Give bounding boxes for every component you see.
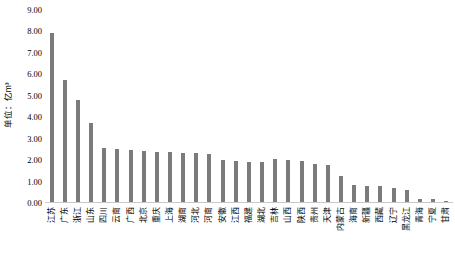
x-axis-tick-label: 天津 (324, 207, 332, 223)
x-label-slot: 吉林 (269, 205, 282, 255)
bar-slot (203, 10, 216, 203)
x-axis-tick-label: 内蒙古 (337, 207, 345, 231)
x-label-slot: 云南 (111, 205, 124, 255)
bar (63, 80, 67, 203)
bar (102, 148, 106, 203)
x-axis-tick-label: 辽宁 (390, 207, 398, 223)
bar (273, 159, 277, 203)
x-label-slot: 浙江 (71, 205, 84, 255)
bar-slot (45, 10, 58, 203)
bar-slot (163, 10, 176, 203)
x-label-slot: 福建 (242, 205, 255, 255)
bar-slot (256, 10, 269, 203)
x-label-slot: 广西 (124, 205, 137, 255)
y-axis-tick-label: 2.00 (27, 156, 42, 165)
x-label-slot: 山东 (84, 205, 97, 255)
x-axis-tick-label: 重庆 (153, 207, 161, 223)
bar-slot (124, 10, 137, 203)
x-axis-tick-label: 西藏 (376, 207, 384, 223)
bar-slot (137, 10, 150, 203)
bar-slot (269, 10, 282, 203)
bar (260, 162, 264, 203)
x-label-slot: 湖北 (256, 205, 269, 255)
bar-slot (216, 10, 229, 203)
x-label-slot: 天津 (321, 205, 334, 255)
x-axis-tick-label: 吉林 (271, 207, 279, 223)
bar (129, 150, 133, 203)
x-label-slot: 北京 (137, 205, 150, 255)
x-axis-line (45, 202, 453, 203)
x-axis-tick-label: 广东 (61, 207, 69, 223)
bar (234, 161, 238, 203)
x-label-slot: 青海 (413, 205, 426, 255)
x-label-slot: 内蒙古 (334, 205, 347, 255)
x-label-slot: 河南 (203, 205, 216, 255)
bar-slot (387, 10, 400, 203)
bar-slot (98, 10, 111, 203)
bar-slot (400, 10, 413, 203)
x-axis-tick-label: 福建 (245, 207, 253, 223)
bar (365, 186, 369, 203)
x-axis-tick-label: 江苏 (48, 207, 56, 223)
bar-slot (84, 10, 97, 203)
bar-slot (282, 10, 295, 203)
bar (392, 188, 396, 203)
y-axis-tick-label: 9.00 (27, 6, 42, 15)
bar-slot (321, 10, 334, 203)
x-axis-tick-label: 四川 (100, 207, 108, 223)
bar (247, 162, 251, 203)
bar (50, 33, 54, 203)
bar-slot (440, 10, 453, 203)
x-axis-tick-label: 北京 (140, 207, 148, 223)
x-axis-tick-label: 安徽 (219, 207, 227, 223)
x-axis-tick-label: 河南 (205, 207, 213, 223)
bar-chart: 单位：亿m³ 9.008.007.006.005.004.003.002.001… (0, 0, 455, 255)
x-axis-tick-label: 陕西 (298, 207, 306, 223)
bar-slot (308, 10, 321, 203)
x-axis-tick-label: 海南 (350, 207, 358, 223)
x-label-slot: 安徽 (216, 205, 229, 255)
bar (115, 149, 119, 203)
x-axis-tick-label: 山西 (284, 207, 292, 223)
x-label-slot: 河北 (190, 205, 203, 255)
bar (326, 165, 330, 203)
x-label-slot: 陕西 (295, 205, 308, 255)
y-axis-tick-labels: 9.008.007.006.005.004.003.002.001.000.00 (16, 0, 44, 210)
bar-slot (229, 10, 242, 203)
y-axis-tick-label: 3.00 (27, 134, 42, 143)
x-label-slot: 江苏 (45, 205, 58, 255)
bar-slot (111, 10, 124, 203)
x-axis-tick-label: 甘肃 (442, 207, 450, 223)
x-label-slot: 辽宁 (387, 205, 400, 255)
bar (339, 176, 343, 203)
x-axis-tick-label: 湖北 (258, 207, 266, 223)
bar-slot (413, 10, 426, 203)
x-label-slot: 山西 (282, 205, 295, 255)
bar (89, 123, 93, 203)
bar-slot (374, 10, 387, 203)
y-axis-tick-label: 4.00 (27, 113, 42, 122)
bar-slot (177, 10, 190, 203)
x-axis-tick-label: 浙江 (74, 207, 82, 223)
x-label-slot: 西藏 (374, 205, 387, 255)
x-axis-tick-label: 宁夏 (429, 207, 437, 223)
x-label-slot: 湖南 (177, 205, 190, 255)
x-label-slot: 新疆 (361, 205, 374, 255)
bar-slot (361, 10, 374, 203)
x-axis-tick-label: 广西 (127, 207, 135, 223)
x-label-slot: 江西 (229, 205, 242, 255)
bar-slot (242, 10, 255, 203)
x-axis-tick-label: 山东 (87, 207, 95, 223)
x-label-slot: 黑龙江 (400, 205, 413, 255)
bar (405, 190, 409, 203)
x-label-slot: 甘肃 (440, 205, 453, 255)
bar (300, 161, 304, 203)
bar-slot (295, 10, 308, 203)
x-axis-tick-label: 青海 (416, 207, 424, 223)
y-axis-tick-label: 6.00 (27, 70, 42, 79)
x-axis-tick-label: 云南 (113, 207, 121, 223)
x-axis-tick-label: 黑龙江 (403, 207, 411, 231)
bar (155, 152, 159, 203)
x-axis-tick-labels: 江苏广东浙江山东四川云南广西北京重庆上海湖南河北河南安徽江西福建湖北吉林山西陕西… (45, 205, 453, 255)
x-axis-tick-label: 湖南 (179, 207, 187, 223)
